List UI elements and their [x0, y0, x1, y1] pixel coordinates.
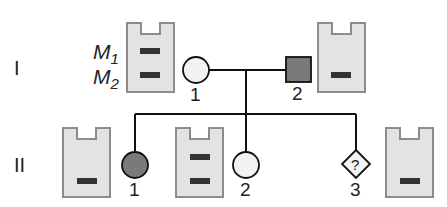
gel-lane: [63, 128, 110, 197]
band-m1: [190, 154, 210, 160]
generation-label-II: II: [14, 154, 25, 176]
individual-II-3-question-mark: ?: [351, 156, 359, 173]
individual-II-1-circle: [122, 152, 148, 178]
gel-II-3: [386, 128, 433, 197]
gel-I-1: [127, 23, 174, 92]
band-m2: [140, 72, 160, 78]
marker-label-m2: M2: [93, 65, 120, 92]
individual-I-2-number: 2: [292, 83, 303, 104]
pedigree-diagram: I II M1 M2 1 2 1 2: [0, 0, 447, 207]
gel-I-2: [318, 23, 365, 92]
individual-I-1-circle: [183, 57, 209, 83]
gel-lane: [176, 128, 223, 197]
band-m2: [190, 178, 210, 184]
individual-I-1-number: 1: [190, 84, 201, 105]
gel-lane: [127, 23, 174, 92]
individual-II-2-circle: [233, 152, 259, 178]
marker-label-m1: M1: [93, 40, 119, 67]
gel-lane: [318, 23, 365, 92]
gel-II-2: [176, 128, 223, 197]
individual-II-3-number: 3: [350, 179, 361, 200]
gel-lane: [386, 128, 433, 197]
individual-I-2-square: [286, 57, 311, 82]
individual-II-1-number: 1: [129, 179, 140, 200]
band-m2: [400, 178, 420, 184]
gel-II-1: [63, 128, 110, 197]
band-m2: [77, 178, 97, 184]
individual-II-2-number: 2: [240, 179, 251, 200]
band-m1: [140, 48, 160, 54]
band-m2: [331, 72, 351, 78]
generation-label-I: I: [14, 57, 20, 79]
